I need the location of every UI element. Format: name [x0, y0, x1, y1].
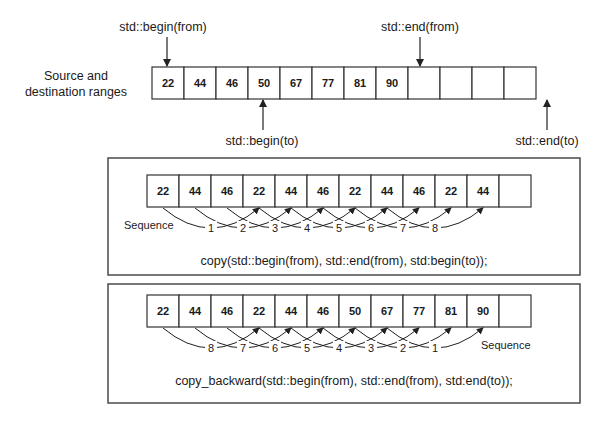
array-cell — [408, 67, 440, 99]
svg-text:90: 90 — [386, 77, 398, 89]
array-cell: 44 — [275, 295, 307, 327]
array-cell: 90 — [467, 295, 499, 327]
svg-text:22: 22 — [445, 185, 457, 197]
svg-text:1: 1 — [432, 342, 438, 354]
svg-text:22: 22 — [349, 185, 361, 197]
svg-text:44: 44 — [477, 185, 490, 197]
array-cell: 44 — [467, 175, 499, 207]
copy-backward-code-label: copy_backward(std::begin(from), std::end… — [175, 374, 513, 388]
array-cell: 46 — [216, 67, 248, 99]
array-cell — [499, 295, 531, 327]
svg-text:3: 3 — [272, 222, 278, 234]
pointer-end-from: std::end(from) — [381, 20, 459, 66]
svg-text:8: 8 — [208, 342, 214, 354]
array-cell: 44 — [179, 295, 211, 327]
array-cell: 50 — [248, 67, 280, 99]
array-cell — [472, 67, 504, 99]
array-cell: 22 — [147, 175, 179, 207]
array-cell: 44 — [184, 67, 216, 99]
svg-text:std::end(to): std::end(to) — [515, 134, 578, 148]
svg-text:46: 46 — [221, 185, 233, 197]
array-cell: 46 — [307, 295, 339, 327]
svg-text:46: 46 — [226, 77, 238, 89]
array-cell: 46 — [403, 175, 435, 207]
pointer-begin-to: std::begin(to) — [226, 100, 299, 148]
top-array: 22 44 46 50 67 77 81 90 — [152, 67, 536, 99]
svg-text:4: 4 — [304, 222, 310, 234]
svg-text:46: 46 — [317, 185, 329, 197]
array-cell — [499, 175, 531, 207]
svg-text:22: 22 — [157, 305, 169, 317]
svg-text:4: 4 — [336, 342, 342, 354]
svg-text:5: 5 — [304, 342, 310, 354]
array-cell: 77 — [403, 295, 435, 327]
copy-backward-panel: 22 44 46 22 44 46 50 67 77 81 90 8 7 6 — [108, 284, 580, 403]
array-cell: 90 — [376, 67, 408, 99]
array-cell: 22 — [243, 295, 275, 327]
pointer-end-to: std::end(to) — [515, 100, 578, 148]
svg-text:81: 81 — [354, 77, 366, 89]
svg-text:44: 44 — [285, 305, 298, 317]
copy-sequence-label: Sequence — [124, 219, 174, 231]
array-cell: 44 — [275, 175, 307, 207]
svg-text:50: 50 — [349, 305, 361, 317]
copy-algorithm-diagram: Source and destination ranges 22 44 46 5… — [0, 0, 604, 421]
svg-text:2: 2 — [240, 222, 246, 234]
array-cell: 46 — [211, 175, 243, 207]
svg-text:50: 50 — [258, 77, 270, 89]
copy-array: 22 44 46 22 44 46 22 44 46 22 44 — [147, 175, 531, 207]
svg-text:2: 2 — [400, 342, 406, 354]
array-cell — [504, 67, 536, 99]
array-cell: 44 — [371, 175, 403, 207]
range-label-line1: Source and — [44, 69, 108, 83]
svg-text:3: 3 — [368, 342, 374, 354]
svg-text:77: 77 — [322, 77, 334, 89]
array-cell: 50 — [339, 295, 371, 327]
copy-backward-array: 22 44 46 22 44 46 50 67 77 81 90 — [147, 295, 531, 327]
array-cell: 44 — [179, 175, 211, 207]
array-cell: 67 — [371, 295, 403, 327]
svg-text:67: 67 — [381, 305, 393, 317]
svg-text:22: 22 — [253, 305, 265, 317]
svg-text:44: 44 — [285, 185, 298, 197]
svg-text:7: 7 — [240, 342, 246, 354]
copy-backward-sequence-label: Sequence — [481, 339, 531, 351]
array-cell: 67 — [280, 67, 312, 99]
range-label-line2: destination ranges — [25, 85, 127, 99]
copy-panel: 22 44 46 22 44 46 22 44 46 22 44 1 2 — [108, 158, 580, 275]
svg-text:90: 90 — [477, 305, 489, 317]
array-cell: 22 — [339, 175, 371, 207]
svg-text:46: 46 — [221, 305, 233, 317]
svg-text:22: 22 — [253, 185, 265, 197]
svg-text:22: 22 — [157, 185, 169, 197]
array-cell: 22 — [243, 175, 275, 207]
svg-text:6: 6 — [272, 342, 278, 354]
svg-text:77: 77 — [413, 305, 425, 317]
array-cell: 22 — [152, 67, 184, 99]
array-cell: 81 — [344, 67, 376, 99]
array-cell: 46 — [211, 295, 243, 327]
svg-text:22: 22 — [162, 77, 174, 89]
svg-text:44: 44 — [381, 185, 394, 197]
svg-text:44: 44 — [189, 305, 202, 317]
svg-text:std::end(from): std::end(from) — [381, 20, 459, 34]
array-cell — [440, 67, 472, 99]
svg-text:46: 46 — [413, 185, 425, 197]
svg-text:1: 1 — [208, 222, 214, 234]
svg-text:6: 6 — [368, 222, 374, 234]
array-cell: 77 — [312, 67, 344, 99]
svg-text:5: 5 — [336, 222, 342, 234]
array-cell: 46 — [307, 175, 339, 207]
copy-code-label: copy(std::begin(from), std::end(from), s… — [201, 254, 488, 268]
svg-text:std::begin(from): std::begin(from) — [119, 20, 207, 34]
pointer-begin-from: std::begin(from) — [119, 20, 207, 66]
svg-text:67: 67 — [290, 77, 302, 89]
range-label: Source and destination ranges — [25, 69, 127, 99]
array-cell: 22 — [435, 175, 467, 207]
svg-text:7: 7 — [400, 222, 406, 234]
svg-text:std::begin(to): std::begin(to) — [226, 134, 299, 148]
array-cell: 81 — [435, 295, 467, 327]
svg-text:8: 8 — [432, 222, 438, 234]
array-cell: 22 — [147, 295, 179, 327]
svg-text:44: 44 — [194, 77, 207, 89]
